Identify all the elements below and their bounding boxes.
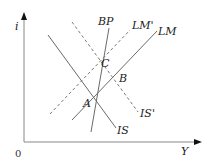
bp-label: BP [97,15,114,28]
lm-label: LM [157,25,177,38]
point-b-label: B [118,72,127,85]
is-label: IS [116,124,129,137]
lm-prime-label: LM' [131,19,154,32]
is-prime-label: IS' [139,107,155,120]
x-axis-label: Y [181,145,190,158]
bp-curve [91,28,109,132]
y-axis-arrow-icon [21,12,27,20]
point-c-label: C [101,57,110,70]
origin-label: 0 [15,148,21,159]
y-axis-label: i [15,20,19,33]
is-lm-bp-diagram: i 0 Y IS IS' LM LM' BP A B C [0,0,211,164]
point-a-label: A [82,97,91,110]
x-axis-arrow-icon [194,139,202,145]
